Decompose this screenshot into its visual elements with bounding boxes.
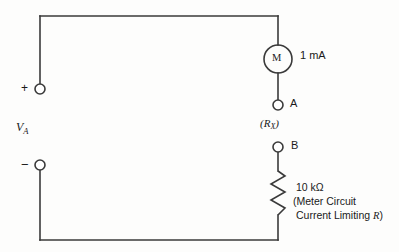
resistor-zigzag-icon xyxy=(271,171,285,215)
resistor-value-label: 10 kΩ xyxy=(296,182,324,193)
circuit-diagram-figure: M 1 mA A B (RX) VA + − 10 kΩ (Meter Circ… xyxy=(0,0,399,252)
terminal-b-label: B xyxy=(291,140,298,152)
terminal-post-b[interactable] xyxy=(273,142,283,152)
terminal-a-label: A xyxy=(290,98,297,110)
unknown-paren-close: ) xyxy=(275,117,279,129)
positive-polarity-label: + xyxy=(21,82,28,95)
unknown-resistance-label: (RX) xyxy=(260,118,279,132)
resistor-note-suffix: ) xyxy=(379,209,383,221)
source-voltage-label: VA xyxy=(16,121,29,135)
terminal-post-a[interactable] xyxy=(273,100,283,110)
resistor-note-line1: (Meter Circuit xyxy=(293,196,356,207)
terminal-post-positive[interactable] xyxy=(35,84,45,94)
source-voltage-subscript: A xyxy=(23,126,28,136)
meter-symbol-label: M xyxy=(272,52,281,63)
resistor-note-prefix: Current Limiting xyxy=(296,209,373,221)
negative-polarity-label: − xyxy=(21,158,29,172)
meter-rating-label: 1 mA xyxy=(300,50,326,62)
terminal-post-negative[interactable] xyxy=(35,160,45,170)
resistor-note-line2: Current Limiting R) xyxy=(296,210,383,221)
